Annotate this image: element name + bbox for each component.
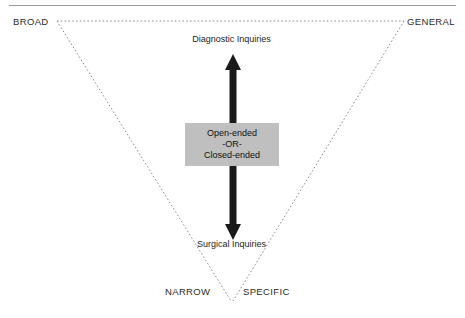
arrow-bottom-label-surgical-inquiries: Surgical Inquiries <box>0 239 464 249</box>
corner-label-general: GENERAL <box>407 16 455 27</box>
arrow-top-label-diagnostic-inquiries: Diagnostic Inquiries <box>0 34 464 44</box>
corner-label-specific: SPECIFIC <box>243 286 290 297</box>
diagram-canvas: BROAD GENERAL NARROW SPECIFIC Diagnostic… <box>0 0 465 318</box>
center-question-type-box: Open-ended -OR- Closed-ended <box>185 123 279 166</box>
corner-label-broad: BROAD <box>13 16 49 27</box>
box-line-open-ended: Open-ended <box>207 128 257 139</box>
box-line-closed-ended: Closed-ended <box>204 150 260 161</box>
corner-label-narrow: NARROW <box>165 286 210 297</box>
box-line-or: -OR- <box>222 139 242 150</box>
